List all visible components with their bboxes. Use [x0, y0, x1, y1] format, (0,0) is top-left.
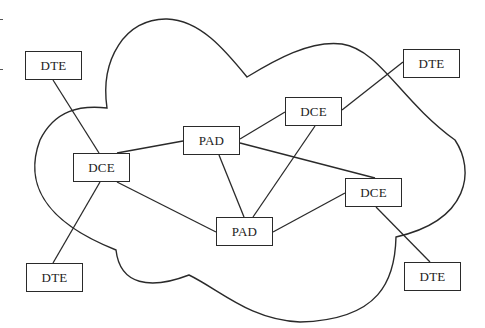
node-label: PAD: [232, 224, 257, 240]
node-pad2: PAD: [216, 217, 273, 246]
node-dte1: DTE: [25, 51, 82, 80]
edge-dce1-pad2: [117, 182, 216, 232]
node-label: DCE: [360, 185, 387, 201]
node-label: DTE: [420, 269, 446, 285]
node-dte3: DTE: [26, 263, 83, 292]
edge-pad1-dce2: [240, 112, 285, 139]
edge-pad1-dce3: [240, 143, 375, 178]
node-label: DTE: [41, 58, 67, 74]
node-label: DCE: [88, 160, 115, 176]
network-diagram: DTEDCEPADDCEDTEDCEPADDTEDTE: [0, 0, 485, 328]
node-dce3: DCE: [345, 178, 402, 207]
margin-tick-mark: [0, 69, 3, 70]
edge-dce1-dte3: [53, 182, 100, 263]
edge-dce3-dte4: [376, 207, 430, 262]
node-label: PAD: [199, 133, 224, 149]
edge-dce2-pad2: [253, 126, 315, 217]
node-label: DCE: [300, 104, 327, 120]
margin-tick-mark: [0, 19, 3, 20]
node-dte2: DTE: [403, 49, 460, 78]
node-dce1: DCE: [73, 153, 130, 182]
edge-pad1-pad2: [219, 155, 244, 217]
node-dte4: DTE: [404, 262, 461, 291]
edge-dce1-pad1: [117, 141, 183, 153]
node-pad1: PAD: [183, 126, 240, 155]
node-label: DTE: [419, 56, 445, 72]
edge-dce2-dte2: [342, 62, 403, 110]
node-dce2: DCE: [285, 97, 342, 126]
edge-pad2-dce3: [273, 193, 345, 232]
node-label: DTE: [42, 270, 68, 286]
